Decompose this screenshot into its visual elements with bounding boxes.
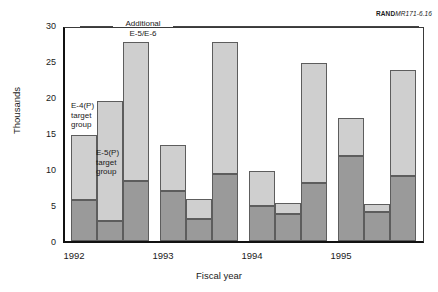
y-tick-label-0: 0 [30,238,56,247]
bar-1992-2-target [97,221,123,241]
annotation-additional-e5-e6: Additional E-5/E-6 [113,19,173,38]
rand-source-credit: RANDMR171-6.16 [376,10,432,17]
bar-1994-1-additional [249,171,275,206]
y-tick-label-25: 25 [30,58,56,67]
bar-1992-1 [71,135,97,241]
y-tick-label-20: 20 [30,94,56,103]
bar-1995-1-target [338,156,364,241]
annotation-additional-leader-left [80,26,113,27]
bar-1994-2-additional [275,203,301,215]
x-tick-label-1995: 1995 [306,250,376,261]
y-axis-title: Thousands [11,71,22,151]
rand-credit-bold: RAND [376,10,395,17]
bar-1995-3 [390,70,416,241]
bar-1994-1 [249,171,275,241]
y-tick-label-30: 30 [30,22,56,31]
bar-1992-1-target [71,200,97,241]
bar-1995-2 [364,204,390,241]
bar-1995-3-additional [390,70,416,177]
bar-1993-1 [160,145,186,241]
x-tick-label-1993: 1993 [128,250,198,261]
bar-1995-2-additional [364,204,390,212]
chart-figure: RANDMR171-6.16 Thousands 30 25 20 15 10 … [0,0,438,292]
bar-1994-3-target [301,183,327,241]
bar-1993-3-target [212,174,238,241]
x-tick-label-1994: 1994 [217,250,287,261]
annotation-e4-target-group: E-4(P) target group [71,101,117,130]
bar-1993-2 [186,199,212,242]
bar-1993-1-additional [160,145,186,191]
bar-1993-1-target [160,191,186,241]
bar-1995-2-target [364,212,390,241]
bar-1995-1 [338,118,364,241]
bar-1994-2 [275,203,301,241]
bar-1994-2-target [275,214,301,241]
bar-1992-3 [123,42,149,241]
bar-1993-3-additional [212,42,238,174]
bar-1995-3-target [390,176,416,241]
bar-1994-1-target [249,206,275,241]
rand-credit-italic: MR171-6.16 [395,10,432,17]
bar-1994-3-additional [301,63,327,183]
y-tick-label-15: 15 [30,130,56,139]
bar-1993-2-target [186,219,212,241]
bar-1992-1-additional [71,135,97,200]
bar-1992-3-target [123,181,149,242]
annotation-additional-leader-right [173,26,419,27]
x-axis-title: Fiscal year [0,270,438,281]
x-tick-label-1992: 1992 [39,250,109,261]
bar-1995-1-additional [338,118,364,156]
plot-area [63,27,424,243]
y-tick-label-5: 5 [30,202,56,211]
annotation-e5-target-group: E-5(P) target group [96,148,142,177]
bar-1993-3 [212,42,238,241]
y-tick-label-10: 10 [30,166,56,175]
bar-1994-3 [301,63,327,241]
bar-1993-2-additional [186,199,212,219]
